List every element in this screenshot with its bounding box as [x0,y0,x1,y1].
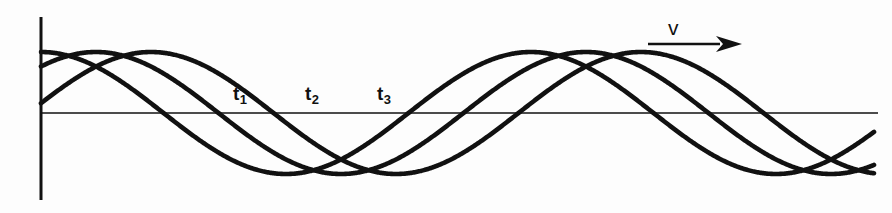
traveling-wave-figure: v t1 t2 t3 [0,0,892,213]
velocity-label: v [668,17,679,38]
wave-plot-canvas [0,0,892,213]
time-label-t3: t3 [377,84,391,106]
time-label-t1: t1 [233,84,247,106]
time-label-subscript: 2 [311,92,319,107]
time-label-subscript: 3 [383,92,391,107]
time-label-subscript: 1 [239,92,247,107]
time-label-t2: t2 [305,84,319,106]
velocity-arrow [648,36,742,52]
